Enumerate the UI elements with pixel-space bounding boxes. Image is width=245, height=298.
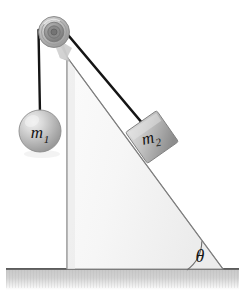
mass-one-subscript: 1 [44,133,50,145]
incline-plane [67,57,223,269]
physics-diagram-figure: m1 m2 θ [0,0,245,298]
rope-segment-vertical [39,30,41,114]
incline-left-face-shade [67,57,75,269]
pulley-hub [51,29,57,35]
angle-theta-label: θ [196,246,205,266]
rope-to-mass-one [39,30,41,114]
pulley-wheel [39,17,70,48]
diagram-canvas: m1 m2 θ [0,0,245,298]
ground-surface [6,268,239,290]
ground-hatch [6,270,239,288]
mass-one-letter: m [31,123,43,142]
